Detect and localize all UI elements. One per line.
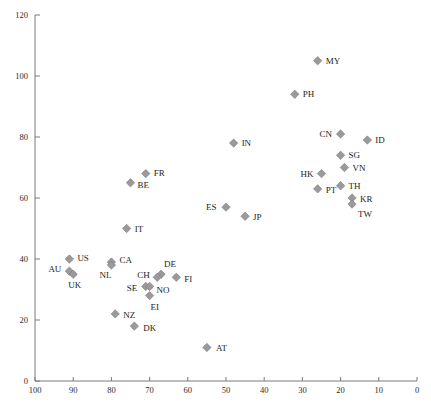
point-label-hk: HK: [301, 169, 314, 179]
data-point: ID: [363, 135, 385, 145]
point-label-dk: DK: [143, 323, 156, 333]
data-point: ES: [206, 202, 230, 212]
y-tick-label: 100: [15, 71, 28, 81]
x-tick-label: 20: [336, 385, 345, 395]
point-marker-tw: [348, 200, 356, 208]
data-point: HK: [301, 169, 326, 179]
point-marker-ei: [145, 291, 153, 299]
point-marker-jp: [241, 212, 249, 220]
point-marker-th: [336, 182, 344, 190]
point-marker-dk: [130, 322, 138, 330]
data-point: IN: [229, 138, 251, 148]
data-point: DK: [130, 322, 157, 333]
point-label-ph: PH: [303, 89, 315, 99]
point-label-se: SE: [127, 283, 138, 293]
data-point: SG: [336, 150, 360, 160]
ticks-layer: 1009080706050403020100020406080100120: [15, 10, 419, 395]
point-label-kr: KR: [360, 194, 373, 204]
x-tick-label: 70: [145, 385, 154, 395]
point-label-ca: CA: [119, 255, 132, 265]
x-tick-label: 80: [107, 385, 116, 395]
data-point: CH: [137, 270, 161, 281]
x-tick-label: 10: [375, 385, 384, 395]
point-marker-es: [222, 203, 230, 211]
data-point: MY: [313, 56, 340, 66]
x-tick-label: 30: [298, 385, 307, 395]
point-label-sg: SG: [349, 150, 361, 160]
point-marker-us: [65, 255, 73, 263]
point-marker-fi: [172, 273, 180, 281]
point-marker-my: [313, 57, 321, 65]
point-label-es: ES: [206, 202, 217, 212]
data-point: BE: [126, 179, 149, 190]
point-label-fr: FR: [154, 168, 165, 178]
point-label-uk: UK: [68, 280, 81, 290]
data-point: FI: [172, 273, 192, 284]
data-point: IT: [122, 224, 143, 234]
point-label-au: AU: [48, 264, 61, 274]
point-label-nz: NZ: [123, 310, 135, 320]
point-label-it: IT: [135, 224, 144, 234]
data-point: VN: [340, 163, 366, 173]
point-marker-sg: [336, 151, 344, 159]
point-label-pt: PT: [326, 185, 337, 195]
point-marker-in: [229, 139, 237, 147]
x-tick-label: 0: [415, 385, 419, 395]
point-label-cn: CN: [320, 129, 333, 139]
data-points-layer: MYPHCNIDSGVNHKPTTHKRTWINFRBEESJPITUSAUUK…: [48, 56, 385, 354]
plot-canvas: 1009080706050403020100020406080100120 MY…: [0, 0, 431, 411]
x-tick-label: 100: [29, 385, 42, 395]
point-marker-vn: [340, 163, 348, 171]
data-point: JP: [241, 212, 262, 222]
point-label-my: MY: [326, 56, 341, 66]
point-marker-cn: [336, 130, 344, 138]
x-tick-label: 40: [260, 385, 269, 395]
point-marker-id: [363, 136, 371, 144]
point-marker-at: [203, 343, 211, 351]
point-marker-nz: [111, 310, 119, 318]
y-tick-label: 40: [20, 254, 29, 264]
point-marker-it: [122, 224, 130, 232]
point-label-id: ID: [375, 135, 385, 145]
point-marker-pt: [313, 185, 321, 193]
data-point: US: [65, 253, 89, 263]
point-label-ch: CH: [137, 270, 150, 280]
point-label-th: TH: [349, 181, 361, 191]
point-marker-fr: [142, 169, 150, 177]
data-point: CN: [320, 129, 345, 139]
point-marker-be: [126, 179, 134, 187]
y-tick-label: 60: [20, 193, 29, 203]
point-marker-hk: [317, 169, 325, 177]
data-point: NZ: [111, 310, 135, 320]
data-point: NL: [99, 261, 115, 280]
data-point: UK: [68, 270, 81, 290]
point-label-nl: NL: [99, 270, 111, 280]
data-point: TH: [336, 181, 361, 191]
x-tick-label: 90: [69, 385, 78, 395]
x-tick-label: 50: [222, 385, 231, 395]
point-label-vn: VN: [352, 163, 365, 173]
data-point: FR: [142, 168, 165, 178]
data-point: PH: [291, 89, 315, 99]
y-tick-label: 120: [15, 10, 28, 20]
point-label-de: DE: [164, 259, 176, 269]
x-tick-label: 60: [184, 385, 193, 395]
point-label-no: NO: [157, 285, 170, 295]
point-label-jp: JP: [253, 212, 262, 222]
y-tick-label: 80: [20, 132, 29, 142]
point-label-at: AT: [216, 343, 228, 353]
y-tick-label: 0: [24, 376, 28, 386]
point-marker-ph: [291, 90, 299, 98]
point-label-in: IN: [242, 138, 252, 148]
point-label-be: BE: [138, 180, 150, 190]
scatter-plot: 1009080706050403020100020406080100120 MY…: [0, 0, 431, 411]
y-tick-label: 20: [20, 315, 29, 325]
point-label-us: US: [77, 253, 89, 263]
point-label-tw: TW: [358, 209, 372, 219]
point-label-ei: EI: [151, 302, 160, 312]
data-point: PT: [313, 185, 336, 195]
data-point: AT: [203, 343, 228, 353]
point-label-fi: FI: [184, 274, 192, 284]
